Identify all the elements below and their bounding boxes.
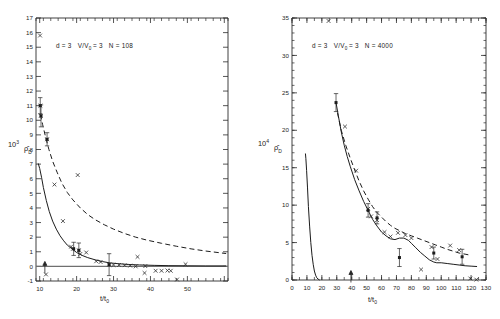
svg-text:35: 35 [282, 14, 289, 21]
right-curves [305, 103, 477, 280]
right-y-axis-title-rho: ρ̂D [274, 143, 282, 154]
svg-text:30: 30 [282, 52, 289, 59]
data-point-cross [160, 269, 164, 273]
right-x-axis-title: t/t0 [368, 295, 377, 305]
right-error-bars [334, 94, 465, 267]
svg-text:60: 60 [378, 284, 385, 291]
left-error-bars [38, 98, 111, 276]
svg-text:6: 6 [30, 175, 34, 182]
svg-text:100: 100 [436, 284, 447, 291]
svg-text:15: 15 [282, 164, 289, 171]
svg-text:-1: -1 [27, 277, 33, 284]
data-point-cross [84, 251, 88, 255]
svg-text:80: 80 [408, 284, 415, 291]
svg-text:0: 0 [30, 263, 34, 270]
svg-text:13: 13 [26, 73, 33, 80]
data-point-cross [38, 34, 42, 38]
left-data-points [38, 34, 187, 282]
data-point-cross [409, 236, 413, 240]
two-panel-figure: 1020304050-101234567891011121314151617 d… [0, 0, 500, 319]
curve-solid-curve-early [305, 153, 319, 280]
curve-dashed-curve [40, 114, 226, 253]
left-y-axis-title: 103 [8, 139, 19, 149]
data-point-cross [76, 173, 80, 177]
svg-text:20: 20 [73, 285, 80, 292]
data-point-cross [343, 125, 347, 129]
svg-text:30: 30 [110, 285, 117, 292]
data-point-errorbar [107, 254, 111, 276]
svg-text:10: 10 [282, 201, 289, 208]
data-point-errorbar [432, 247, 436, 259]
svg-text:0: 0 [290, 284, 294, 291]
svg-text:14: 14 [26, 58, 33, 65]
right-y-axis-title: 104 [258, 138, 269, 148]
svg-text:12: 12 [26, 87, 33, 94]
data-point-cross [143, 271, 147, 275]
left-x-axis-title: t/t0 [100, 294, 109, 304]
svg-text:9: 9 [30, 131, 34, 138]
data-point-cross [389, 235, 393, 239]
svg-text:130: 130 [481, 284, 492, 291]
svg-text:5: 5 [30, 190, 34, 197]
left-plot-svg: 1020304050-101234567891011121314151617 d… [0, 0, 250, 319]
panel-left: 1020304050-101234567891011121314151617 d… [0, 0, 250, 319]
svg-text:5: 5 [286, 239, 290, 246]
svg-text:7: 7 [30, 160, 34, 167]
data-point-cross [136, 255, 140, 259]
svg-text:3: 3 [30, 219, 34, 226]
data-point-cross [419, 268, 423, 272]
data-point-cross [61, 219, 65, 223]
svg-text:15: 15 [26, 43, 33, 50]
svg-text:110: 110 [451, 284, 461, 291]
right-annotation: d = 3V/V0= 3N = 4000 [312, 42, 393, 51]
right-axis-ticks [292, 18, 486, 280]
data-point-cross [154, 269, 158, 273]
svg-text:70: 70 [393, 284, 400, 291]
svg-text:120: 120 [466, 284, 477, 291]
left-curves [38, 114, 226, 266]
svg-text:50: 50 [184, 285, 191, 292]
data-point-cross [396, 231, 400, 235]
svg-text:50: 50 [363, 284, 370, 291]
svg-text:11: 11 [27, 102, 34, 109]
svg-text:10: 10 [26, 116, 33, 123]
right-arrow-marker [349, 271, 353, 283]
svg-text:40: 40 [147, 285, 154, 292]
svg-text:20: 20 [318, 284, 325, 291]
data-point-errorbar [397, 249, 401, 267]
right-data-points [327, 19, 479, 281]
svg-text:17: 17 [26, 14, 33, 21]
svg-text:25: 25 [282, 89, 289, 96]
left-annotation: d = 3V/V0= 3N = 108 [56, 42, 133, 51]
svg-text:10: 10 [36, 285, 43, 292]
svg-text:20: 20 [282, 126, 289, 133]
data-point-cross [369, 214, 373, 218]
svg-text:30: 30 [333, 284, 340, 291]
curve-solid-curve [38, 163, 226, 266]
data-point-errorbar [77, 243, 81, 258]
svg-text:0: 0 [286, 276, 290, 283]
data-point-cross [457, 248, 461, 252]
svg-text:10: 10 [303, 284, 310, 291]
left-arrow-marker [43, 261, 47, 273]
data-point-cross [53, 183, 57, 187]
svg-text:90: 90 [423, 284, 430, 291]
right-plot-svg: 0102030405060708090100110120130051015202… [250, 0, 500, 319]
svg-text:40: 40 [348, 284, 355, 291]
svg-text:4: 4 [30, 204, 34, 211]
data-point-cross [383, 230, 387, 234]
data-point-cross [436, 257, 440, 261]
curve-solid-curve-main [336, 103, 477, 267]
panel-right: 0102030405060708090100110120130051015202… [250, 0, 500, 319]
svg-text:1: 1 [30, 248, 34, 255]
data-point-cross [327, 19, 331, 23]
data-point-cross [448, 244, 452, 248]
data-point-cross [169, 269, 173, 273]
svg-text:2: 2 [30, 233, 34, 240]
svg-text:16: 16 [26, 29, 33, 36]
left-axis-ticklabels: 1020304050-101234567891011121314151617 [26, 14, 191, 292]
